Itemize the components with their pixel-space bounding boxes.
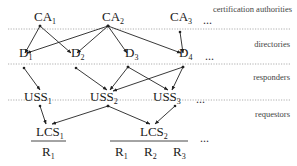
requestor-r1: R1 xyxy=(115,144,128,161)
layer-label-responders: responders xyxy=(253,72,290,82)
edge-origin-dot xyxy=(127,66,130,69)
layer-label-directories: directories xyxy=(254,39,290,49)
edge-arrow xyxy=(77,26,108,53)
edge-arrow xyxy=(40,106,46,124)
edge-origin-dot xyxy=(39,105,42,108)
edges xyxy=(23,25,185,124)
edge-origin-dot xyxy=(39,25,42,28)
pki-hierarchy-diagram: certification authorities directories re… xyxy=(0,0,297,166)
edge-arrow xyxy=(24,68,40,90)
node-lcs1: LCS1 xyxy=(36,124,64,141)
ellipsis: ... xyxy=(205,49,214,63)
node-uss3: USS3 xyxy=(153,89,181,106)
node-uss1: USS1 xyxy=(24,89,52,106)
node-d1: D1 xyxy=(19,45,32,62)
requestor-r2: R2 xyxy=(144,144,157,161)
ellipsis: ... xyxy=(200,131,209,145)
node-lcs2: LCS2 xyxy=(140,124,168,141)
edge-arrow xyxy=(155,106,175,124)
layer-label-certification-authorities: certification authorities xyxy=(213,4,292,14)
node-d4: D4 xyxy=(179,45,192,62)
continuation-ellipses: ............ xyxy=(196,13,214,145)
node-d3: D3 xyxy=(125,45,138,62)
edge-arrow xyxy=(27,26,108,53)
layer-lines xyxy=(8,29,290,100)
edge-arrow xyxy=(108,106,150,124)
edge-origin-dot xyxy=(23,67,26,70)
ellipsis: ... xyxy=(203,13,212,27)
edge-arrow xyxy=(52,106,108,124)
layer-labels: certification authorities directories re… xyxy=(213,4,292,119)
edge-origin-dot xyxy=(107,105,110,108)
edge-origin-dot xyxy=(179,31,182,34)
node-ca2: CA2 xyxy=(102,9,124,26)
node-ca3: CA3 xyxy=(170,9,192,26)
edge-arrow xyxy=(108,26,181,53)
edge-origin-dot xyxy=(182,66,185,69)
requestor-r3: R3 xyxy=(173,144,186,161)
ellipsis: ... xyxy=(196,92,205,106)
edge-arrow xyxy=(113,67,183,91)
edge-origin-dot xyxy=(107,25,110,28)
edge-arrow xyxy=(76,68,107,90)
requestor-groups: R1R1R2R3 xyxy=(31,141,188,161)
node-ca1: CA1 xyxy=(34,9,56,26)
node-d2: D2 xyxy=(71,45,84,62)
edge-origin-dot xyxy=(75,67,78,70)
edge-arrow xyxy=(128,67,168,90)
layer-label-requestors: requestors xyxy=(255,109,290,119)
node-uss2: USS2 xyxy=(90,89,118,106)
requestor-r1: R1 xyxy=(42,144,55,161)
